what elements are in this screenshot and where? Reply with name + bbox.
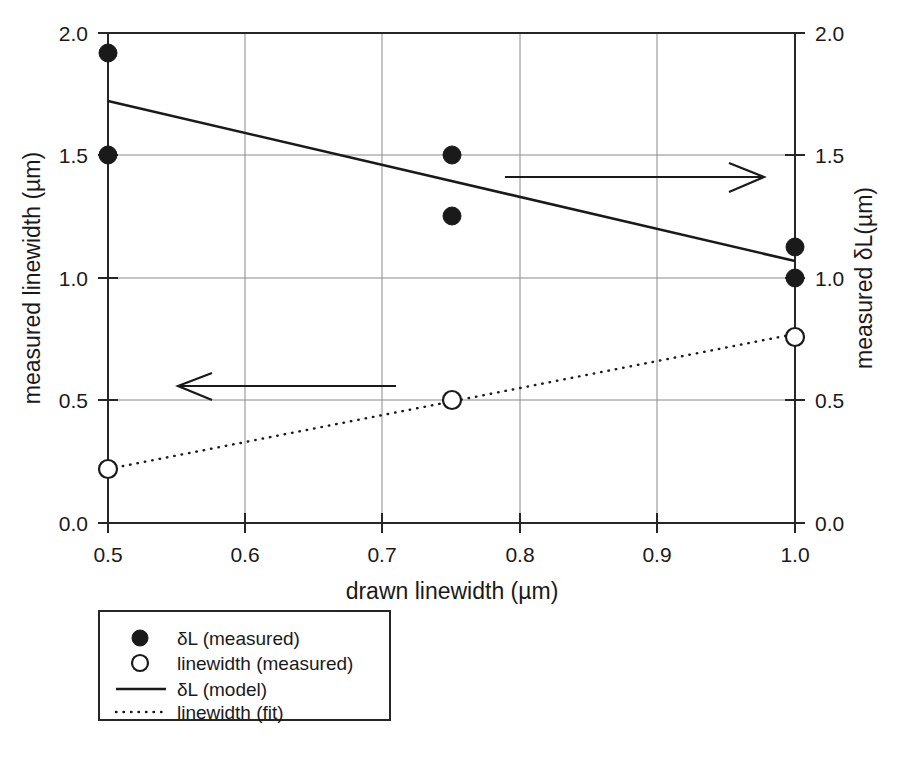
xtick-label-1.0: 1.0 xyxy=(780,543,809,566)
legend-marker-open-circle-icon xyxy=(132,655,148,671)
legend-label-linewidth-measured: linewidth (measured) xyxy=(177,653,353,674)
data-point xyxy=(99,146,117,164)
ytick-label-2.0: 2.0 xyxy=(59,22,88,45)
data-point xyxy=(443,146,461,164)
y2tick-label-0.0: 0.0 xyxy=(815,512,844,535)
x-axis-title: drawn linewidth (µm) xyxy=(346,578,559,604)
xtick-label-0.9: 0.9 xyxy=(642,543,671,566)
data-point xyxy=(786,269,804,287)
xtick-label-0.8: 0.8 xyxy=(505,543,534,566)
legend-label-linewidth-fit: linewidth (fit) xyxy=(177,702,284,723)
y2tick-label-2.0: 2.0 xyxy=(815,22,844,45)
data-point xyxy=(786,328,804,346)
data-point xyxy=(443,207,461,225)
data-point xyxy=(99,460,117,478)
chart-figure: 2.0 1.5 1.0 0.5 0.0 2.0 1.5 1.0 0.5 0.0 … xyxy=(0,0,901,764)
legend: δL (measured) linewidth (measured) δL (m… xyxy=(99,611,390,723)
xtick-label-0.6: 0.6 xyxy=(230,543,259,566)
data-point xyxy=(786,238,804,256)
y-axis-title: measured linewidth (µm) xyxy=(19,152,45,404)
ytick-label-0.5: 0.5 xyxy=(59,389,88,412)
left-axis-arrow-icon xyxy=(178,373,396,400)
y2-axis-title: measured δL(µm) xyxy=(851,187,877,369)
y2tick-label-0.5: 0.5 xyxy=(815,389,844,412)
xtick-label-0.7: 0.7 xyxy=(367,543,396,566)
legend-label-delta-l-model: δL (model) xyxy=(177,679,267,700)
data-point xyxy=(443,391,461,409)
data-point xyxy=(99,44,117,62)
xtick-label-0.5: 0.5 xyxy=(93,543,122,566)
chart-svg: 2.0 1.5 1.0 0.5 0.0 2.0 1.5 1.0 0.5 0.0 … xyxy=(0,0,901,764)
series-points-linewidth-measured xyxy=(99,328,804,478)
series-line-delta-l-model xyxy=(108,101,795,261)
legend-marker-filled-circle-icon xyxy=(132,630,148,646)
y2tick-label-1.0: 1.0 xyxy=(815,267,844,290)
ytick-label-0.0: 0.0 xyxy=(59,512,88,535)
ytick-label-1.5: 1.5 xyxy=(59,144,88,167)
ytick-label-1.0: 1.0 xyxy=(59,267,88,290)
right-axis-arrow-icon xyxy=(505,163,764,192)
y2tick-label-1.5: 1.5 xyxy=(815,144,844,167)
legend-label-delta-l-measured: δL (measured) xyxy=(177,628,300,649)
series-points-delta-l-measured xyxy=(99,44,804,287)
